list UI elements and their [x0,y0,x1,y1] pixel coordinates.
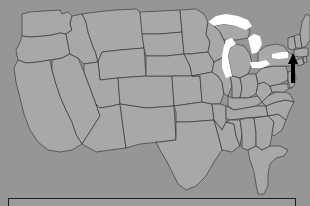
state-kansas[interactable] [172,76,202,106]
state-maine[interactable] [300,14,310,48]
caption-panel-text [9,199,295,203]
state-ohio[interactable] [240,74,258,98]
state-colorado[interactable] [118,76,174,108]
state-oklahoma[interactable] [174,102,214,122]
state-nebraska[interactable] [146,54,192,76]
united-states-map[interactable] [0,0,310,206]
map-viewer [0,0,310,206]
state-alabama[interactable] [240,118,256,150]
state-washington[interactable] [22,10,72,37]
state-michigan[interactable] [228,44,252,78]
mouse-cursor-arrow[interactable] [286,52,300,84]
state-florida[interactable] [248,146,288,194]
state-minnesota[interactable] [180,9,210,54]
state-north-dakota[interactable] [140,10,182,34]
map-states-layer [14,9,310,194]
state-pennsylvania[interactable] [256,66,288,86]
state-rhode-island[interactable] [303,56,307,63]
state-south-dakota[interactable] [142,32,184,56]
state-georgia[interactable] [254,116,274,150]
caption-panel[interactable] [8,198,296,206]
state-wyoming[interactable] [98,48,146,80]
